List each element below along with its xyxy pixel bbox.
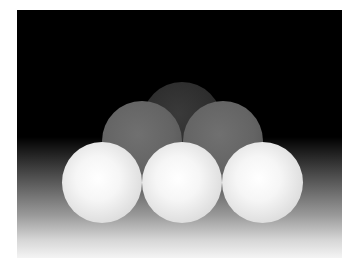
sphere-front-right: [222, 142, 303, 223]
sphere-front-left: [62, 142, 142, 223]
sphere-front-center: [142, 142, 222, 223]
rendered-scene: [17, 10, 342, 258]
